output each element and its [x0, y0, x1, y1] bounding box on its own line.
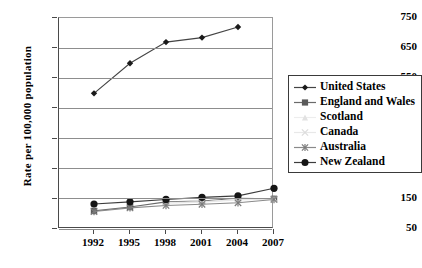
legend-item-scotland[interactable]: Scotland	[292, 109, 415, 124]
y-axis-tick-mark	[52, 198, 57, 199]
x-axis-tick-mark	[237, 229, 238, 234]
legend-item-label: Canada	[318, 125, 358, 138]
legend-item-canada[interactable]: Canada	[292, 124, 415, 139]
y-axis-tick-mark	[52, 228, 57, 229]
y-axis-tick-mark	[52, 77, 57, 78]
gridline	[59, 48, 272, 49]
legend-item-label: United States	[318, 80, 386, 93]
x-axis-tick-label: 2004	[217, 236, 257, 248]
x-axis-tick-label: 1998	[145, 236, 185, 248]
diamond-marker	[292, 80, 318, 93]
data-series-layer	[59, 18, 274, 229]
series-new-zealand	[90, 185, 277, 208]
x-axis-tick-mark	[93, 229, 94, 234]
cross-marker	[292, 125, 318, 138]
y-axis-tick-mark	[52, 138, 57, 139]
y-axis-tick-label: 50	[365, 222, 417, 233]
legend-item-australia[interactable]: Australia	[292, 139, 415, 154]
x-axis-tick-mark	[273, 229, 274, 234]
gridline	[59, 138, 272, 139]
legend-item-label: New Zealand	[318, 155, 385, 168]
x-axis-tick-label: 1995	[109, 236, 149, 248]
x-axis-tick-mark	[201, 229, 202, 234]
legend-item-label: Australia	[318, 140, 366, 153]
legend-item-england-and-wales[interactable]: England and Wales	[292, 94, 415, 109]
y-axis-tick-mark	[52, 17, 57, 18]
circle-marker	[292, 155, 318, 168]
square-marker	[292, 95, 318, 108]
gridline	[59, 168, 272, 169]
asterisk-marker	[292, 140, 318, 153]
gridline	[59, 108, 272, 109]
triangle-marker	[292, 110, 318, 123]
y-axis-tick-label: 650	[365, 41, 417, 52]
x-axis-tick-label: 1992	[73, 236, 113, 248]
y-axis-tick-mark	[52, 168, 57, 169]
y-axis-tick-label: 150	[365, 192, 417, 203]
y-axis-title: Rate per 100,000 population	[21, 21, 37, 211]
series-united-states	[91, 24, 241, 97]
legend-item-label: Scotland	[318, 110, 363, 123]
gridline	[59, 198, 272, 199]
y-axis-tick-mark	[52, 47, 57, 48]
plot-area	[58, 17, 273, 228]
x-axis-tick-label: 2007	[253, 236, 293, 248]
x-axis-tick-mark	[165, 229, 166, 234]
gridline	[59, 229, 272, 230]
gridline	[59, 78, 272, 79]
legend-item-label: England and Wales	[318, 95, 415, 108]
x-axis-tick-label: 2001	[181, 236, 221, 248]
chart-legend: United StatesEngland and WalesScotlandCa…	[288, 75, 422, 173]
y-axis-tick-label: 750	[365, 11, 417, 22]
legend-item-new-zealand[interactable]: New Zealand	[292, 154, 415, 169]
legend-item-united-states[interactable]: United States	[292, 79, 415, 94]
x-axis-tick-mark	[129, 229, 130, 234]
y-axis-tick-mark	[52, 107, 57, 108]
